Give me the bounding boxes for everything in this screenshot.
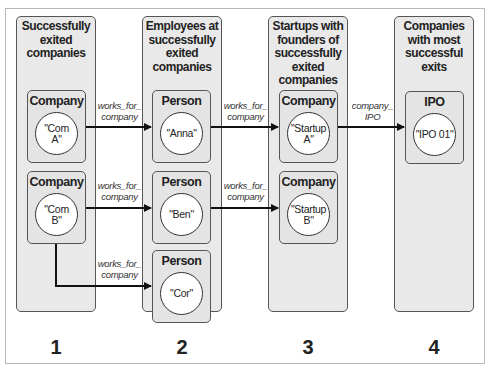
node-label: Company	[280, 175, 337, 189]
node-company-startup-a: Company "StartupA"	[279, 90, 338, 163]
edge-label-line: company	[92, 269, 147, 280]
edge-label-works-for-company: works_for_company	[92, 258, 147, 280]
edge-label-line: works_for_	[218, 180, 273, 191]
edge-label-line: company_	[345, 100, 400, 111]
value-line: A"	[291, 134, 326, 145]
edge-label-works-for-company: works_for_company	[218, 100, 273, 122]
value-line: "Cor"	[170, 288, 193, 299]
node-value-circle: "Ben"	[160, 193, 203, 236]
edge-label-works-for-company: works_for_company	[92, 100, 147, 122]
node-value-circle: "IPO 01"	[413, 113, 456, 156]
column-number: 4	[394, 336, 474, 359]
edge-label-works-for-company: works_for_company	[218, 180, 273, 202]
node-label: Company	[280, 94, 337, 108]
node-value-circle: "Anna"	[160, 112, 203, 155]
value-line: "Com	[44, 123, 69, 134]
edge-label-line: company	[92, 191, 147, 202]
edge-label-line: works_for_	[92, 180, 147, 191]
node-label: IPO	[406, 95, 463, 109]
node-label: Company	[28, 175, 85, 189]
node-person-anna: Person "Anna"	[152, 90, 211, 163]
value-line: "Com	[44, 204, 69, 215]
edge-label-works-for-company: works_for_company	[92, 180, 147, 202]
edge-label-line: IPO	[345, 111, 400, 122]
value-line: "Anna"	[166, 128, 196, 139]
column-number: 3	[268, 336, 348, 359]
node-label: Person	[153, 94, 210, 108]
column-number: 1	[16, 336, 96, 359]
node-value-circle: "StartupA"	[287, 112, 330, 155]
value-line: "IPO 01"	[416, 129, 454, 140]
value-line: "Ben"	[169, 209, 194, 220]
edge-label-line: company	[218, 111, 273, 122]
node-value-circle: "StartupB"	[287, 193, 330, 236]
value-line: B"	[44, 215, 69, 226]
edge-label-line: works_for_	[92, 100, 147, 111]
node-value-circle: "Cor"	[160, 272, 203, 315]
value-line: B"	[291, 215, 326, 226]
edge-label-line: company	[218, 191, 273, 202]
value-line: "Startup	[291, 204, 326, 215]
value-line: A"	[44, 134, 69, 145]
node-ipo-01: IPO "IPO 01"	[405, 91, 464, 164]
node-label: Person	[153, 254, 210, 268]
node-person-ben: Person "Ben"	[152, 171, 211, 244]
value-line: "Startup	[291, 123, 326, 134]
node-label: Company	[28, 94, 85, 108]
node-company-startup-b: Company "StartupB"	[279, 171, 338, 244]
node-value-circle: "ComA"	[35, 112, 78, 155]
edge-label-company-ipo: company_IPO	[345, 100, 400, 122]
column-number: 2	[142, 336, 222, 359]
node-label: Person	[153, 175, 210, 189]
edge-label-line: works_for_	[92, 258, 147, 269]
node-company-com-a: Company "ComA"	[27, 90, 86, 163]
node-value-circle: "ComB"	[35, 193, 78, 236]
node-company-com-b: Company "ComB"	[27, 171, 86, 244]
edge-label-line: works_for_	[218, 100, 273, 111]
edge-label-line: company	[92, 111, 147, 122]
node-person-cor: Person "Cor"	[152, 250, 211, 323]
